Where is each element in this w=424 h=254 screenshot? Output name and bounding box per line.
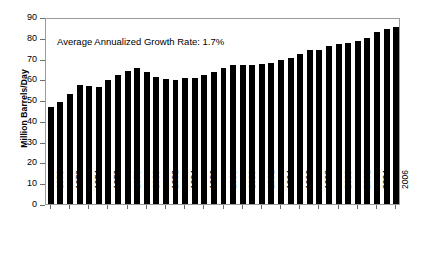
bar <box>201 75 207 204</box>
x-tick-label: 1982 <box>170 170 181 210</box>
x-tick-label: 1988 <box>228 170 239 210</box>
bar <box>144 72 150 204</box>
bar <box>86 86 92 204</box>
bar <box>221 68 227 205</box>
bar <box>48 107 54 204</box>
x-tick-label: 2004 <box>381 170 392 210</box>
bar <box>105 80 111 204</box>
bar <box>125 71 131 204</box>
x-tick-label: 1994 <box>285 170 296 210</box>
x-tick-label: 1986 <box>208 170 219 210</box>
y-tick-label: 50 <box>0 95 37 105</box>
bar <box>259 64 265 204</box>
x-tick-mark <box>127 205 128 209</box>
x-tick-mark <box>69 205 70 209</box>
x-tick-mark <box>88 205 89 209</box>
x-tick-mark <box>242 205 243 209</box>
x-tick-mark <box>318 205 319 209</box>
x-tick-mark <box>107 205 108 209</box>
x-tick-mark <box>261 205 262 209</box>
bar <box>297 54 303 204</box>
x-tick-mark <box>357 205 358 209</box>
y-tick-label: 0 <box>0 199 37 209</box>
x-tick-label: 2000 <box>343 170 354 210</box>
bar <box>355 41 361 204</box>
y-tick-label: 60 <box>0 74 37 84</box>
x-tick-label: 1978 <box>132 170 143 210</box>
y-tick-label: 10 <box>0 178 37 188</box>
x-tick-label: 2006 <box>400 170 411 210</box>
x-tick-mark <box>395 205 396 209</box>
bar <box>182 78 188 204</box>
x-tick-mark <box>338 205 339 209</box>
x-tick-label: 1990 <box>247 170 258 210</box>
x-tick-mark <box>50 205 51 209</box>
growth-rate-annotation: Average Annualized Growth Rate: 1.7% <box>57 36 224 47</box>
bar <box>278 60 284 204</box>
y-tick-label: 40 <box>0 116 37 126</box>
x-tick-label: 1970 <box>55 170 66 210</box>
y-tick-mark <box>40 205 45 206</box>
y-tick-label: 90 <box>0 12 37 22</box>
x-tick-label: 1996 <box>304 170 315 210</box>
bar <box>316 50 322 204</box>
x-tick-label: 1976 <box>112 170 123 210</box>
bar <box>67 94 73 204</box>
x-tick-mark <box>203 205 204 209</box>
x-tick-label: 1980 <box>151 170 162 210</box>
x-tick-label: 1992 <box>266 170 277 210</box>
x-tick-mark <box>146 205 147 209</box>
x-tick-mark <box>184 205 185 209</box>
x-tick-label: 1972 <box>74 170 85 210</box>
bar <box>374 32 380 204</box>
y-tick-label: 80 <box>0 33 37 43</box>
x-tick-mark <box>223 205 224 209</box>
bar <box>336 44 342 204</box>
y-tick-label: 70 <box>0 54 37 64</box>
x-tick-mark <box>165 205 166 209</box>
x-tick-label: 2002 <box>362 170 373 210</box>
x-tick-mark <box>280 205 281 209</box>
x-tick-mark <box>376 205 377 209</box>
bar <box>163 79 169 204</box>
x-tick-label: 1998 <box>323 170 334 210</box>
bar <box>240 65 246 204</box>
x-tick-mark <box>299 205 300 209</box>
bar <box>393 27 399 204</box>
chart-figure: Million Barrels/Day 0102030405060708090 … <box>0 0 424 254</box>
x-tick-label: 1984 <box>189 170 200 210</box>
x-tick-label: 1974 <box>93 170 104 210</box>
y-tick-label: 20 <box>0 157 37 167</box>
y-tick-label: 30 <box>0 137 37 147</box>
